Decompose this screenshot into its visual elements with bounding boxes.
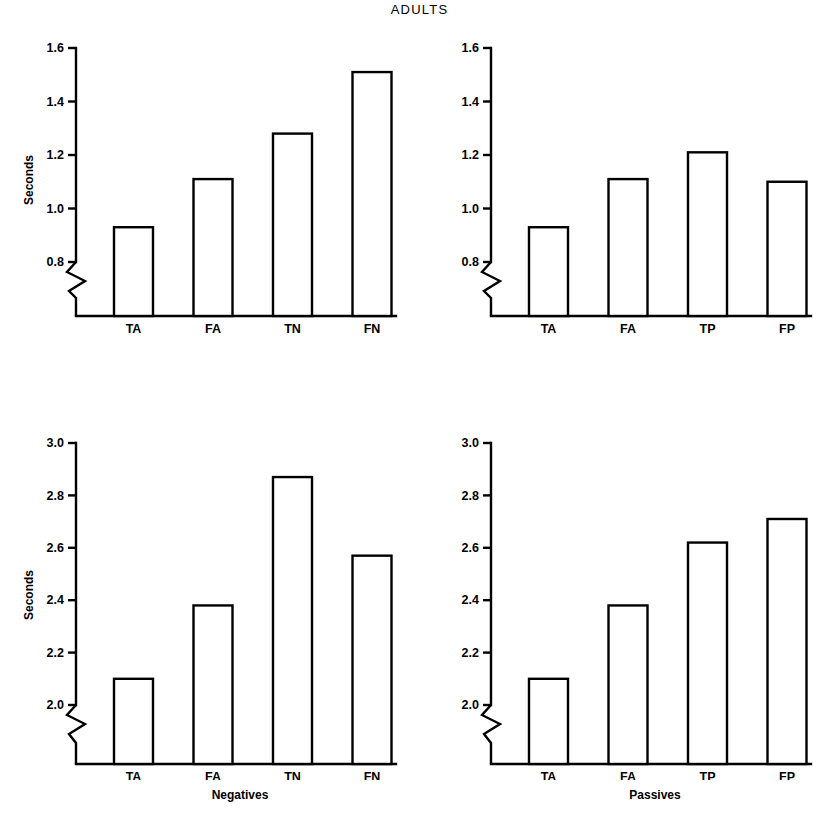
bar-FN <box>353 72 392 316</box>
category-label-FA: FA <box>205 770 221 780</box>
bar-TP <box>688 152 727 316</box>
y-axis-label-bottom-left: Seconds <box>22 570 36 620</box>
figure-root: ADULTS 0.81.01.21.41.6TAFATNFN Seconds 0… <box>0 0 839 830</box>
y-tick-label: 2.2 <box>47 646 64 660</box>
panel-top-right: 0.81.01.21.41.6TAFATPFP <box>443 30 823 335</box>
axis-break-icon <box>67 705 85 764</box>
category-label-FA: FA <box>620 770 636 780</box>
bar-TN <box>273 134 312 316</box>
category-label-TA: TA <box>541 322 557 335</box>
panel-bottom-left-plot: 2.02.22.42.62.83.0TAFATNFN <box>28 425 408 780</box>
category-label-TP: TP <box>700 322 716 335</box>
category-label-FA: FA <box>205 322 221 335</box>
y-tick-label: 0.8 <box>462 255 479 269</box>
bar-TA <box>529 227 568 316</box>
y-tick-label: 0.8 <box>47 255 64 269</box>
y-tick-label: 1.6 <box>462 41 479 55</box>
panel-top-left-plot: 0.81.01.21.41.6TAFATNFN <box>28 30 408 335</box>
y-tick-label: 2.4 <box>462 593 479 607</box>
category-label-TA: TA <box>541 770 557 780</box>
y-tick-label: 1.0 <box>47 202 64 216</box>
bar-TP <box>688 543 727 764</box>
panel-top-right-plot: 0.81.01.21.41.6TAFATPFP <box>443 30 823 335</box>
bar-FA <box>609 179 648 316</box>
bar-TA <box>529 679 568 764</box>
x-axis-label-bottom-left: Negatives <box>130 788 350 802</box>
y-tick-label: 2.6 <box>462 541 479 555</box>
panel-top-left: 0.81.01.21.41.6TAFATNFN <box>28 30 408 335</box>
category-label-TN: TN <box>284 770 301 780</box>
y-tick-label: 2.0 <box>47 698 64 712</box>
y-tick-label: 2.8 <box>462 489 479 503</box>
panel-bottom-right-plot: 2.02.22.42.62.83.0TAFATPFP <box>443 425 823 780</box>
y-tick-label: 1.2 <box>462 148 479 162</box>
y-tick-label: 2.6 <box>47 541 64 555</box>
y-tick-label: 1.6 <box>47 41 64 55</box>
y-tick-label: 1.4 <box>47 95 64 109</box>
y-tick-label: 2.4 <box>47 593 64 607</box>
y-tick-label: 2.0 <box>462 698 479 712</box>
y-tick-label: 1.0 <box>462 202 479 216</box>
category-label-FA: FA <box>620 322 636 335</box>
bar-FP <box>768 519 807 764</box>
bar-TA <box>114 227 153 316</box>
axis-break-icon <box>67 262 85 316</box>
category-label-TN: TN <box>284 322 301 335</box>
bar-FA <box>194 179 233 316</box>
panel-bottom-right: 2.02.22.42.62.83.0TAFATPFP <box>443 425 823 780</box>
y-tick-label: 1.2 <box>47 148 64 162</box>
axis-break-icon <box>482 262 500 316</box>
category-label-FP: FP <box>779 322 795 335</box>
bar-FP <box>768 182 807 316</box>
category-label-FP: FP <box>779 770 795 780</box>
y-tick-label: 3.0 <box>462 436 479 450</box>
category-label-TA: TA <box>126 770 142 780</box>
category-label-TP: TP <box>700 770 716 780</box>
panel-bottom-left: 2.02.22.42.62.83.0TAFATNFN <box>28 425 408 780</box>
bar-FN <box>353 556 392 764</box>
y-tick-label: 1.4 <box>462 95 479 109</box>
y-tick-label: 2.2 <box>462 646 479 660</box>
category-label-FN: FN <box>364 770 381 780</box>
bar-TN <box>273 477 312 764</box>
y-tick-label: 2.8 <box>47 489 64 503</box>
figure-title: ADULTS <box>0 2 839 17</box>
y-axis-label-top-left: Seconds <box>22 155 36 205</box>
category-label-TA: TA <box>126 322 142 335</box>
y-tick-label: 3.0 <box>47 436 64 450</box>
bar-TA <box>114 679 153 764</box>
x-axis-label-bottom-right: Passives <box>545 788 765 802</box>
bar-FA <box>609 605 648 764</box>
category-label-FN: FN <box>364 322 381 335</box>
bar-FA <box>194 605 233 764</box>
axis-break-icon <box>482 705 500 764</box>
